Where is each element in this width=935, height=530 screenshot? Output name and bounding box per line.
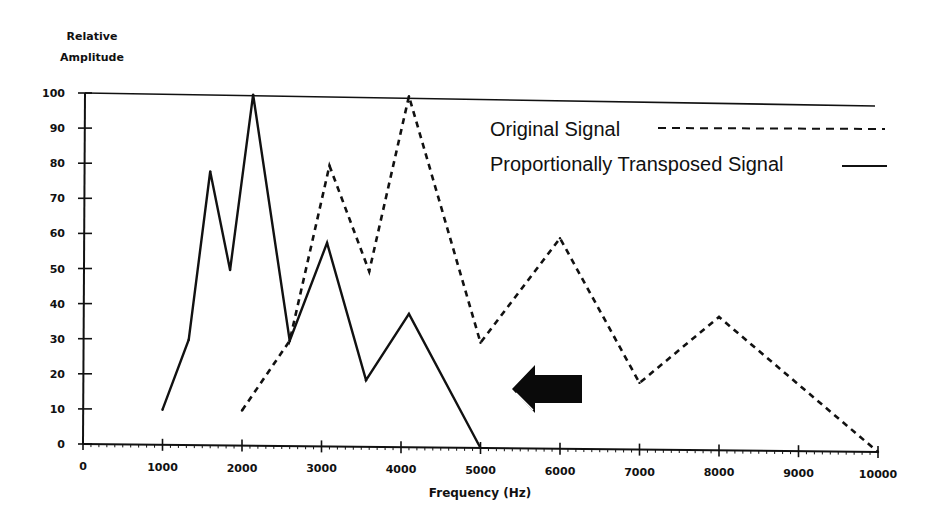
x-tick-label: 1000 [147, 461, 178, 474]
legend: Original Signal Proportionally Transpose… [490, 118, 887, 175]
legend-swatch-original [658, 128, 885, 129]
x-tick-label: 6000 [545, 465, 576, 478]
data-point-original [718, 316, 720, 318]
data-point-transposed [289, 340, 291, 342]
x-tick-label: 8000 [704, 466, 735, 479]
y-tick-label: 100 [42, 87, 65, 100]
y-tick-label: 0 [57, 438, 65, 451]
data-point-original [368, 270, 370, 272]
x-tick-label: 7000 [624, 466, 655, 479]
x-axis-label: Frequency (Hz) [429, 486, 531, 500]
chart: Relative Amplitude 010203040506070809010… [0, 0, 935, 530]
data-point-transposed [479, 447, 481, 449]
top-frame-line [85, 93, 875, 106]
y-tick-label: 90 [50, 122, 66, 135]
y-tick-label: 80 [50, 157, 66, 170]
data-point-transposed [252, 94, 254, 96]
x-tick-label: 9000 [783, 467, 814, 480]
x-tick-label: 4000 [386, 463, 417, 476]
x-tick-label: 10000 [859, 468, 898, 481]
data-point-original [241, 409, 243, 411]
data-point-transposed [408, 313, 410, 315]
data-point-transposed [326, 242, 328, 244]
left-arrow-icon [512, 365, 582, 413]
x-tick-label: 5000 [465, 464, 496, 477]
data-point-transposed [161, 409, 163, 411]
x-tick-label: 3000 [306, 462, 337, 475]
y-tick-label: 70 [50, 192, 66, 205]
y-axis-label-line1: Relative [67, 30, 118, 43]
data-point-transposed [365, 379, 367, 381]
data-point-original [328, 164, 330, 166]
y-axis-label-line2: Amplitude [60, 51, 124, 64]
data-point-original [877, 451, 879, 453]
series-line-transposed [163, 95, 481, 448]
x-tick-label: 2000 [227, 462, 258, 475]
y-tick-label: 20 [50, 368, 66, 381]
data-point-original [559, 237, 561, 239]
series-layer [161, 94, 879, 454]
data-point-transposed [209, 170, 211, 172]
data-point-transposed [229, 269, 231, 271]
data-point-transposed [188, 339, 190, 341]
legend-label-original: Original Signal [490, 118, 620, 140]
y-tick-label: 50 [50, 263, 66, 276]
y-tick-label: 10 [50, 403, 66, 416]
x-tick-label: 0 [79, 460, 87, 473]
y-tick-label: 30 [50, 333, 66, 346]
data-point-original [479, 342, 481, 344]
y-tick-label: 40 [50, 298, 66, 311]
legend-label-transposed: Proportionally Transposed Signal [490, 153, 784, 175]
data-point-original [638, 382, 640, 384]
y-tick-label: 60 [50, 227, 66, 240]
data-point-original [408, 95, 410, 97]
